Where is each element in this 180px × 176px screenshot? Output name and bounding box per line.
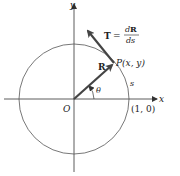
y-axis-label: y [69, 0, 76, 10]
intercept-label: (1, 0) [131, 104, 155, 114]
arc-length-label: s [130, 79, 134, 88]
angle-label: θ [96, 86, 101, 95]
angle-arc [89, 86, 94, 99]
x-axis-label: x [159, 94, 164, 104]
equals-sign: = [113, 31, 121, 41]
point-P-label: P(x, y) [115, 58, 145, 68]
diagram-svg: x y O R θ s (1, 0) P(x, y) T = d R ds [0, 0, 180, 176]
position-vector-label: R [98, 62, 106, 72]
derivative-denominator: ds [126, 36, 135, 45]
origin-label: O [63, 104, 71, 114]
derivative-numerator-R: R [130, 24, 137, 34]
tangent-T-label: T [104, 31, 111, 41]
unit-circle-diagram: x y O R θ s (1, 0) P(x, y) T = d R ds [0, 0, 180, 176]
